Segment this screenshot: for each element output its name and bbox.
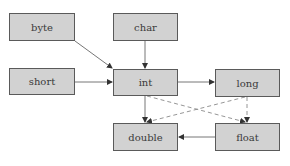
node-double: double [113,123,178,151]
edge-byte-int [75,41,112,68]
diagram-canvas: byte char short int long double float [0,0,290,166]
node-char: char [113,13,178,41]
node-label: char [134,22,157,33]
node-label: short [29,76,55,87]
node-long: long [215,69,280,97]
node-label: byte [31,22,53,33]
node-byte: byte [9,13,75,41]
node-label: int [139,77,153,88]
node-label: long [236,78,258,89]
node-label: double [128,132,162,143]
node-int: int [113,69,178,96]
node-label: float [236,132,259,143]
node-short: short [9,68,75,95]
node-float: float [215,123,280,151]
